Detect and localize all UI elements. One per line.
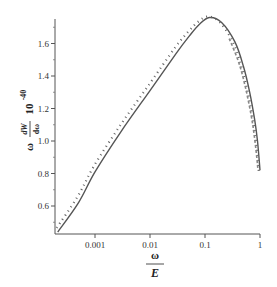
y-tick-label: 1.4	[38, 71, 50, 81]
y-tick-label: 1.0	[38, 136, 50, 146]
chart: 0.60.81.01.21.41.60.0010.010.11 ω E ω dW…	[0, 0, 277, 287]
x-axis-title-numerator: ω	[151, 249, 159, 261]
x-axis-title-denominator: E	[150, 266, 159, 280]
y-axis-title-prefix: ω	[23, 143, 35, 151]
x-tick-label: 0.001	[85, 240, 105, 250]
x-tick-label: 1	[258, 240, 263, 250]
series-line-dashed	[229, 39, 258, 171]
y-axis-title-factor: 10	[23, 103, 35, 115]
y-tick-label: 1.6	[38, 39, 50, 49]
y-tick-label: 0.6	[38, 201, 50, 211]
y-tick-label: 1.2	[38, 104, 49, 114]
y-axis-title-denominator: dω	[32, 124, 41, 134]
x-axis-title: ω E	[146, 249, 164, 280]
series-group	[57, 16, 260, 232]
series-line-dotted	[57, 16, 259, 227]
y-axis-title-exponent: -40	[19, 90, 28, 101]
axes: 0.60.81.01.21.41.60.0010.010.11	[38, 19, 263, 250]
y-tick-label: 0.8	[38, 169, 50, 179]
x-tick-label: 0.1	[199, 240, 210, 250]
series-line-solid	[58, 17, 260, 232]
y-axis-title-numerator: dW	[20, 123, 29, 135]
